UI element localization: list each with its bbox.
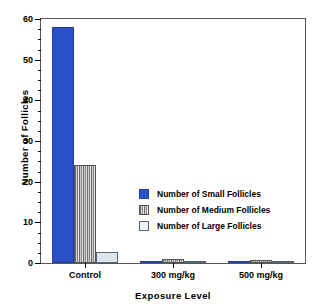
- bar-large-1: [184, 261, 206, 263]
- x-tick-label-0: Control: [69, 270, 101, 280]
- bar-chart: Number of Follicles 0102030405060 Contro…: [0, 0, 324, 308]
- legend-swatch-medium-icon: [139, 205, 149, 215]
- y-tick-minor: [38, 192, 42, 193]
- bar-small-1: [140, 261, 162, 263]
- y-tick-label: 30: [23, 136, 33, 146]
- y-tick-major: [35, 141, 41, 142]
- legend-label-medium: Number of Medium Follicles: [157, 205, 270, 215]
- y-tick-minor: [38, 39, 42, 40]
- y-tick-minor: [38, 111, 42, 112]
- y-tick-minor: [38, 50, 42, 51]
- y-tick-label: 60: [23, 14, 33, 24]
- y-tick-minor: [38, 202, 42, 203]
- y-tick-minor: [38, 80, 42, 81]
- legend-swatch-small-icon: [139, 189, 149, 199]
- y-tick-label: 40: [23, 95, 33, 105]
- y-tick-major: [35, 182, 41, 183]
- bar-large-2: [272, 261, 294, 263]
- y-tick-minor: [38, 121, 42, 122]
- y-tick-label: 50: [23, 55, 33, 65]
- y-tick-major: [35, 60, 41, 61]
- y-tick-minor: [38, 90, 42, 91]
- legend-label-small: Number of Small Follicles: [157, 189, 261, 199]
- legend-item-small[interactable]: Number of Small Follicles: [139, 186, 270, 202]
- legend-item-medium[interactable]: Number of Medium Follicles: [139, 202, 270, 218]
- x-tick-label-1: 300 mg/kg: [151, 270, 195, 280]
- y-tick-label: 10: [23, 217, 33, 227]
- y-tick-minor: [38, 212, 42, 213]
- x-tick: [173, 263, 174, 268]
- y-tick-minor: [38, 161, 42, 162]
- x-axis-title: Exposure Level: [40, 290, 306, 301]
- y-tick-label: 0: [28, 258, 33, 268]
- x-tick-label-2: 500 mg/kg: [239, 270, 283, 280]
- y-tick-minor: [38, 233, 42, 234]
- y-tick-minor: [38, 253, 42, 254]
- y-tick-major: [35, 19, 41, 20]
- y-tick-major: [35, 222, 41, 223]
- bar-small-2: [228, 261, 250, 263]
- legend-swatch-large-icon: [139, 221, 149, 231]
- bar-large-0: [96, 252, 118, 263]
- y-tick-label: 20: [23, 177, 33, 187]
- bar-small-0: [52, 27, 74, 263]
- legend-label-large: Number of Large Follicles: [157, 221, 261, 231]
- y-tick-minor: [38, 131, 42, 132]
- bar-medium-0: [74, 165, 96, 263]
- y-tick-minor: [38, 151, 42, 152]
- y-tick-minor: [38, 29, 42, 30]
- y-tick-major: [35, 100, 41, 101]
- x-tick: [261, 263, 262, 268]
- chart-legend: Number of Small FolliclesNumber of Mediu…: [139, 186, 270, 234]
- x-tick: [85, 263, 86, 268]
- y-tick-major: [35, 263, 41, 264]
- legend-item-large[interactable]: Number of Large Follicles: [139, 218, 270, 234]
- y-tick-minor: [38, 70, 42, 71]
- y-tick-minor: [38, 172, 42, 173]
- y-tick-minor: [38, 243, 42, 244]
